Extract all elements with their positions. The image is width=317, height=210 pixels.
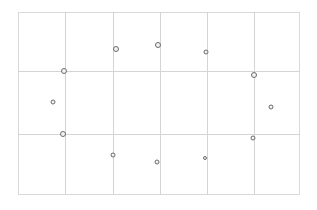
circle-marker-11 [60, 131, 66, 137]
circle-marker-12 [51, 100, 56, 105]
grid-vertical-line-5 [254, 12, 255, 195]
grid-vertical-line-2 [113, 12, 114, 195]
circle-marker-7 [251, 136, 256, 141]
circle-marker-2 [113, 46, 119, 52]
grid-vertical-line-1 [65, 12, 66, 195]
grid-frame [18, 12, 300, 195]
circle-marker-8 [203, 156, 207, 160]
grid-vertical-line-4 [207, 12, 208, 195]
circle-marker-4 [204, 50, 209, 55]
diagram-canvas [0, 0, 317, 210]
circle-marker-9 [155, 160, 160, 165]
circle-marker-5 [251, 72, 257, 78]
grid-vertical-line-3 [160, 12, 161, 195]
circle-marker-6 [269, 105, 274, 110]
circle-marker-3 [155, 42, 161, 48]
circle-marker-10 [111, 153, 116, 158]
circle-marker-1 [61, 68, 67, 74]
